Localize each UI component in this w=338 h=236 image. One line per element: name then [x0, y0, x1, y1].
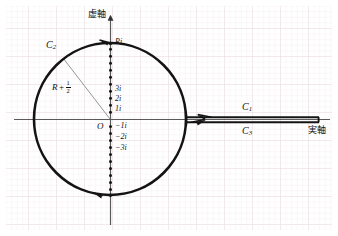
complex-plane-figure: 虚軸 実軸 O Ri 3i 2i 1i −1i −2i −3i C2 C1 C3…: [0, 0, 338, 236]
radius-segment: [64, 59, 111, 119]
contour-drawing: [0, 0, 338, 236]
